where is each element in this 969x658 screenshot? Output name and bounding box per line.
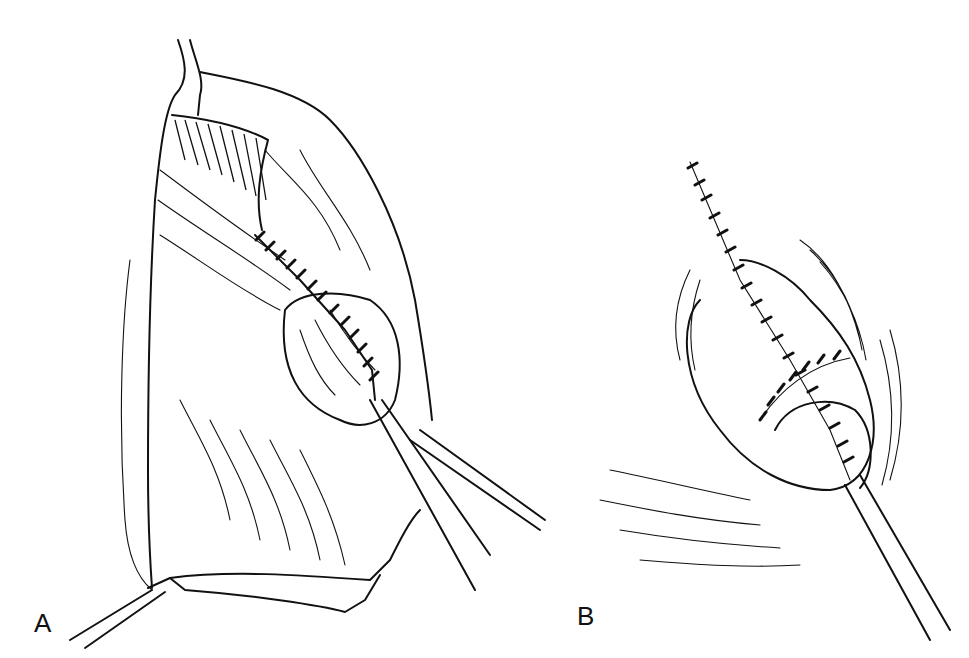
panel-label-a: A <box>34 610 51 636</box>
surgical-illustration: A B <box>0 0 969 658</box>
panel-label-b: B <box>577 603 594 629</box>
panel-b-drawing <box>0 0 969 658</box>
